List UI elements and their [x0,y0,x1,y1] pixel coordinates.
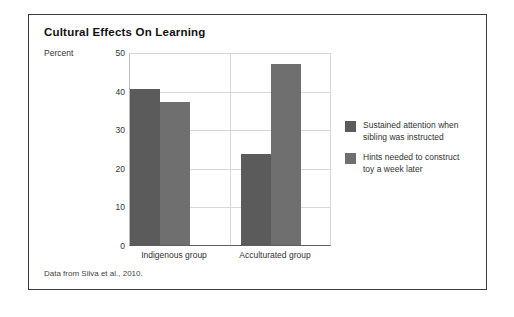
legend: Sustained attention when sibling was ins… [345,120,480,184]
category-label-acculturated: Acculturated group [239,250,310,260]
bar-acculturated-hints-needed [271,64,301,245]
y-tick-label: 50 [116,48,125,58]
legend-swatch-icon [345,121,356,132]
y-tick-label: 10 [116,202,125,212]
legend-label-line-2: toy a week later [363,164,459,176]
legend-swatch-icon [345,153,356,164]
y-axis-unit-label: Percent [44,48,73,58]
legend-item-hints-needed: Hints needed to construct toy a week lat… [345,152,480,175]
y-tick-label: 20 [116,164,125,174]
bar-indigenous-hints-needed [160,102,190,245]
bar-acculturated-sustained-attention [241,154,271,245]
y-tick-label: 40 [116,87,125,97]
legend-label-line-2: sibling was instructed [363,132,458,144]
y-tick-label: 0 [120,241,125,251]
plot-area [129,53,331,246]
legend-label-hints-needed: Hints needed to construct toy a week lat… [363,152,459,175]
legend-label-sustained-attention: Sustained attention when sibling was ins… [363,120,458,143]
y-tick-label: 30 [116,125,125,135]
chart-title: Cultural Effects On Learning [44,26,206,38]
legend-label-line-1: Hints needed to construct [363,152,459,164]
legend-label-line-1: Sustained attention when [363,120,458,132]
legend-item-sustained-attention: Sustained attention when sibling was ins… [345,120,480,143]
y-axis-tick-labels: 50 40 30 20 10 0 [89,53,125,246]
source-footnote: Data from Silva et al., 2010. [44,269,143,278]
bar-indigenous-sustained-attention [130,89,160,245]
gridline-group-separator [230,54,231,245]
figure-frame: Cultural Effects On Learning Percent 50 … [28,14,487,290]
category-label-indigenous: Indigenous group [141,250,207,260]
